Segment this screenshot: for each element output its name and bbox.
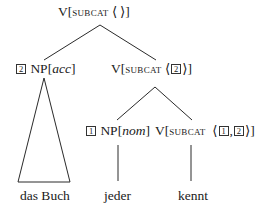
list-separator: ,: [230, 123, 233, 138]
leaf-das-buch: das Buch: [20, 189, 70, 203]
edge-v-subcat-2-to-v-subcat-12: [155, 87, 192, 120]
list-open: ⟨: [212, 123, 217, 138]
tag-box-2: 2: [234, 126, 244, 136]
v2-feature: subcat: [125, 61, 161, 76]
edge-root-to-np-acc: [44, 25, 100, 60]
bracket-close: ]: [188, 61, 193, 76]
root-cat: V: [58, 4, 68, 19]
bracket-close: ]: [145, 123, 150, 138]
root-feature: subcat: [72, 4, 108, 19]
leaf-kennt: kennt: [178, 189, 208, 203]
bracket-close: ]: [250, 123, 255, 138]
tree-edges: [0, 0, 277, 212]
np-acc-cat: NP: [30, 61, 47, 76]
tag-box-2: 2: [16, 64, 26, 74]
node-v-subcat-1-2: V[subcat ⟨1,2⟩]: [155, 124, 255, 138]
tag-box-1: 1: [86, 126, 96, 136]
np-nom-cat: NP: [100, 123, 117, 138]
v2-cat: V: [111, 61, 121, 76]
edge-root-to-v-subcat-2: [100, 25, 156, 60]
np-acc-case: acc: [52, 61, 71, 76]
v12-cat: V: [155, 123, 165, 138]
leaf-jeder: jeder: [104, 189, 131, 203]
np-acc-triangle: [18, 78, 70, 182]
node-np-acc: 2 NP[acc]: [15, 62, 75, 76]
bracket-close: ]: [125, 4, 130, 19]
tag-box-1: 1: [219, 126, 229, 136]
np-nom-case: nom: [122, 123, 145, 138]
edge-v-subcat-2-to-np-nom: [117, 87, 155, 120]
list-open: ⟨: [165, 61, 170, 76]
root-node-v-subcat-empty: V[subcat ⟨ ⟩]: [58, 5, 130, 19]
tag-box-2: 2: [171, 64, 181, 74]
list-open: ⟨: [112, 4, 117, 19]
node-np-nom: 1 NP[nom]: [85, 124, 150, 138]
node-v-subcat-2: V[subcat ⟨2⟩]: [111, 62, 192, 76]
v12-feature: subcat: [169, 123, 205, 138]
bracket-close: ]: [71, 61, 76, 76]
